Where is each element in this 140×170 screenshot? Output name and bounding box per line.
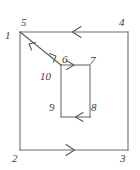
label-5: 5 xyxy=(21,17,27,28)
label-2: 2 xyxy=(12,153,18,164)
outer-square-group xyxy=(20,32,128,150)
branch-cut-line-group xyxy=(20,32,61,65)
inner-rectangle-group xyxy=(61,65,90,117)
contour-diagram: 1 5 4 6 7 10 9 8 2 3 xyxy=(0,0,140,170)
label-10: 10 xyxy=(40,71,51,82)
label-7: 7 xyxy=(90,55,96,66)
label-6: 6 xyxy=(62,54,68,65)
label-1: 1 xyxy=(5,30,11,41)
label-9: 9 xyxy=(49,102,55,113)
label-8: 8 xyxy=(91,102,97,113)
label-4: 4 xyxy=(119,17,125,28)
label-3: 3 xyxy=(120,153,126,164)
